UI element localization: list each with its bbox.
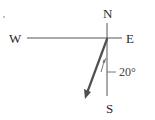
east-label: E: [126, 31, 134, 46]
angle-marker: [101, 58, 116, 72]
vector-arrow: [84, 39, 107, 99]
west-label: W: [9, 31, 22, 46]
arrowhead-icon: [84, 89, 91, 99]
north-label: N: [103, 6, 113, 21]
compass-diagram: N E W S 20°: [0, 0, 155, 120]
angle-label: 20°: [119, 65, 136, 79]
stray-dot: [3, 16, 5, 18]
south-label: S: [106, 101, 113, 116]
